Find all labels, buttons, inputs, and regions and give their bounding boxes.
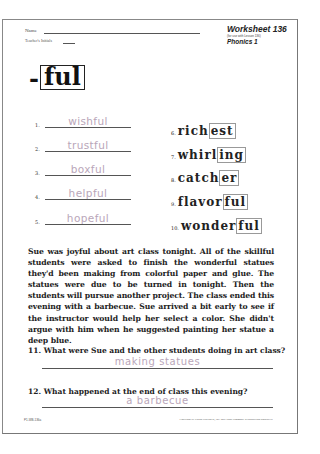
answer-line[interactable] — [45, 127, 131, 128]
answer-word: boxful — [45, 163, 131, 175]
word-base: rich — [178, 124, 209, 138]
answer-line[interactable] — [45, 151, 131, 152]
word-base: catch — [178, 171, 220, 185]
answer-line-12[interactable] — [42, 407, 273, 408]
answer-word: wishful — [45, 115, 131, 127]
item-number: 9. — [171, 201, 176, 207]
answer-word: trustful — [45, 139, 131, 151]
item-number: 7. — [171, 154, 176, 160]
word-suffix-box: ful — [223, 194, 248, 210]
answer-line[interactable] — [45, 199, 131, 200]
answer-line[interactable] — [45, 175, 131, 176]
suffix-heading: -ful — [29, 65, 85, 91]
item-number: 3. — [35, 170, 40, 176]
list-item: 8.catcher — [171, 167, 239, 186]
word-suffix-box: ing — [217, 147, 246, 163]
answer-line[interactable] — [45, 224, 131, 225]
teacher-initials-label: Teacher's Initials — [25, 38, 52, 43]
answer-11: making statues — [42, 356, 273, 367]
answer-line-11[interactable] — [42, 368, 273, 369]
word: flavorful — [178, 194, 248, 210]
worksheet-title: Worksheet 136 — [227, 24, 287, 34]
word: richest — [178, 123, 236, 139]
word-suffix-box: ful — [236, 218, 261, 234]
word-suffix-box: er — [219, 170, 239, 186]
footer-code: P1-WB-136a — [24, 418, 41, 422]
word: catcher — [178, 170, 240, 186]
suffix-dash: - — [29, 64, 39, 93]
list-item: 9.flavorful — [171, 191, 248, 210]
list-item: 6.richest — [171, 120, 236, 139]
item-number: 10. — [171, 225, 179, 231]
word-base: flavor — [178, 195, 223, 209]
answer-word: hopeful — [45, 212, 131, 224]
word-base: wonder — [181, 219, 236, 233]
teacher-initials-line[interactable] — [63, 43, 75, 44]
item-number: 2. — [35, 146, 40, 152]
program-name: Phonics 1 — [227, 38, 258, 45]
item-number: 6. — [171, 130, 176, 136]
word-base: whirl — [178, 148, 218, 162]
reading-passage: Sue was joyful about art class tonight. … — [28, 246, 274, 346]
item-number: 1. — [35, 122, 40, 128]
word-suffix-box: est — [209, 123, 236, 139]
item-number: 4. — [35, 194, 40, 200]
item-number: 5. — [35, 219, 40, 225]
footer-copyright: Copyright by Saxon Publishers, Inc. and … — [140, 418, 273, 421]
word: whirling — [178, 147, 246, 163]
name-field-line[interactable] — [44, 33, 200, 34]
answer-12: a barbecue — [42, 395, 273, 406]
list-item: 7.whirling — [171, 144, 246, 163]
word: wonderful — [181, 218, 262, 234]
answer-word: helpful — [45, 187, 131, 199]
item-number: 8. — [171, 177, 176, 183]
suffix-box: ful — [40, 65, 85, 90]
list-item: 10.wonderful — [171, 215, 262, 234]
question-11: 11. What were Sue and the other students… — [28, 346, 285, 355]
name-label: Name — [25, 28, 37, 33]
